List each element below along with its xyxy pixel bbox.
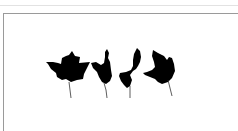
leaf-2-icon [91, 49, 112, 98]
leaf-1-icon [46, 51, 90, 98]
leaf-silhouettes [0, 0, 238, 131]
leaf-3-icon [119, 48, 141, 98]
leaf-4-icon [143, 50, 175, 96]
